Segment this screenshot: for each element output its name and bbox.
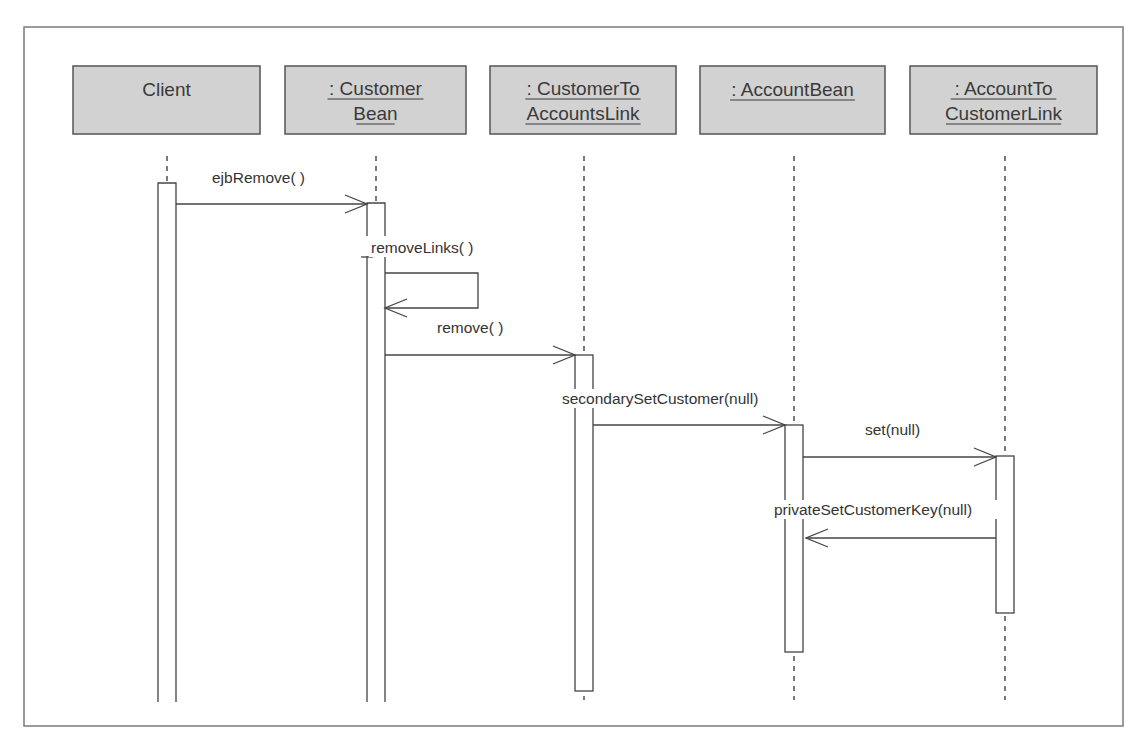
object-customer-bean: : CustomerBean bbox=[285, 66, 466, 134]
object-name-line: Bean bbox=[353, 103, 397, 124]
object-account-bean: : AccountBean bbox=[700, 66, 885, 134]
object-box bbox=[73, 66, 260, 134]
object-name-line: Client bbox=[142, 79, 191, 100]
sequence-diagram: Client: CustomerBean: CustomerToAccounts… bbox=[0, 0, 1144, 750]
object-headers: Client: CustomerBean: CustomerToAccounts… bbox=[73, 66, 1097, 134]
object-client: Client bbox=[73, 66, 260, 134]
activation-customer-bean bbox=[367, 203, 385, 702]
object-account-to-customer-link: : AccountToCustomerLink bbox=[910, 66, 1097, 134]
object-customer-to-accounts-link: : CustomerToAccountsLink bbox=[490, 66, 676, 134]
object-name-line: : Customer bbox=[329, 78, 423, 99]
message-label: secondarySetCustomer(null) bbox=[562, 390, 758, 407]
message-label: privateSetCustomerKey(null) bbox=[774, 501, 972, 518]
activation-account-bean bbox=[785, 425, 803, 652]
object-name-line: AccountsLink bbox=[526, 103, 640, 124]
activation-client bbox=[158, 183, 176, 702]
object-name-line: : AccountBean bbox=[731, 79, 854, 100]
message-label: removeLinks( ) bbox=[371, 239, 474, 256]
message-label: ejbRemove( ) bbox=[212, 169, 305, 186]
activation-account-to-customer-link bbox=[996, 456, 1014, 613]
object-name-line: : AccountTo bbox=[954, 78, 1052, 99]
message-label: set(null) bbox=[865, 421, 920, 438]
message-label: remove( ) bbox=[437, 319, 503, 336]
object-name-line: CustomerLink bbox=[945, 103, 1063, 124]
object-name-line: : CustomerTo bbox=[527, 78, 640, 99]
